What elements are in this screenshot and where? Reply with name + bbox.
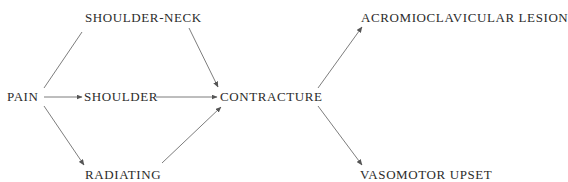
node-shoulder-neck: SHOULDER-NECK: [85, 11, 202, 25]
node-acromioclavicular-lesion: ACROMIOCLAVICULAR LESION: [361, 11, 568, 25]
edge-radiating-to-contracture-arrow: [162, 107, 221, 163]
node-radiating: RADIATING: [85, 168, 161, 182]
node-pain: PAIN: [7, 90, 39, 104]
node-contracture: CONTRACTURE: [220, 90, 323, 104]
edge-contracture-to-acromioclavicular-arrow: [318, 27, 362, 88]
node-vasomotor-upset: VASOMOTOR UPSET: [360, 168, 492, 182]
edge-shoulder-neck-to-contracture-arrow: [189, 28, 218, 87]
edge-pain-to-radiating-arrow: [44, 106, 84, 165]
edge-contracture-to-vasomotor-arrow: [318, 106, 362, 165]
edge-pain-to-shoulder-neck: [44, 32, 82, 88]
node-shoulder: SHOULDER: [84, 90, 158, 104]
